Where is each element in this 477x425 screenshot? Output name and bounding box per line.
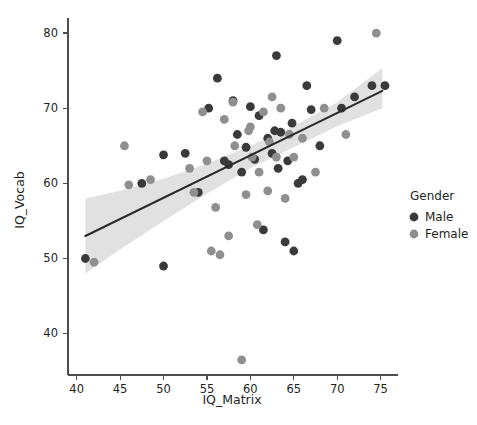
data-point	[159, 262, 168, 271]
y-axis-title: IQ_Vocab	[12, 171, 27, 229]
data-point	[190, 188, 199, 197]
data-point	[253, 220, 262, 229]
data-point	[372, 29, 381, 38]
y-tick-label: 70	[43, 101, 58, 115]
x-tick-label: 70	[330, 382, 345, 396]
data-point	[288, 119, 297, 128]
data-point	[302, 81, 311, 90]
legend-item-label: Male	[425, 210, 453, 224]
data-point	[268, 93, 277, 102]
data-point	[207, 247, 216, 256]
data-point	[230, 141, 239, 150]
data-point	[198, 108, 207, 117]
data-point	[311, 168, 320, 177]
y-tick-label: 50	[43, 251, 58, 265]
data-point	[244, 126, 253, 135]
scatter-plot-figure: 4050607080 4045505560657075 IQ_Matrix IQ…	[0, 0, 477, 425]
legend-swatch-male-icon	[410, 213, 419, 222]
data-point	[263, 186, 272, 195]
data-point	[333, 36, 342, 45]
data-point	[237, 168, 246, 177]
y-tick-label: 80	[43, 26, 58, 40]
data-point	[220, 115, 229, 124]
data-point	[272, 153, 281, 162]
data-point	[255, 168, 264, 177]
data-point	[276, 104, 285, 113]
data-point	[124, 180, 133, 189]
legend-item-label: Female	[425, 227, 468, 241]
data-point	[289, 153, 298, 162]
data-point	[146, 175, 155, 184]
data-point	[185, 164, 194, 173]
legend-title: Gender	[410, 189, 454, 203]
x-tick-label: 75	[373, 382, 388, 396]
x-tick-label: 40	[69, 382, 84, 396]
data-point	[298, 134, 307, 143]
data-point	[259, 108, 268, 117]
data-point	[203, 156, 212, 165]
data-point	[81, 254, 90, 263]
data-point	[274, 164, 283, 173]
data-point	[120, 141, 129, 150]
data-point	[341, 130, 350, 139]
data-point	[181, 149, 190, 158]
y-tick-label: 40	[43, 326, 58, 340]
data-point	[281, 238, 290, 247]
y-tick-label: 60	[43, 176, 58, 190]
data-point	[246, 102, 255, 111]
data-point	[242, 143, 251, 152]
x-tick-label: 50	[156, 382, 171, 396]
data-point	[211, 203, 220, 212]
data-point	[276, 128, 285, 137]
data-point	[289, 247, 298, 256]
data-point	[368, 81, 377, 90]
data-point	[320, 104, 329, 113]
plot-svg: 4050607080 4045505560657075 IQ_Matrix IQ…	[0, 0, 477, 425]
data-point	[242, 190, 251, 199]
data-point	[229, 98, 238, 107]
x-axis-title: IQ_Matrix	[202, 392, 261, 407]
data-point	[298, 175, 307, 184]
data-point	[159, 150, 168, 159]
data-point	[350, 93, 359, 102]
data-point	[272, 51, 281, 60]
data-point	[216, 250, 225, 259]
data-point	[213, 74, 222, 83]
data-point	[90, 258, 99, 267]
data-point	[307, 105, 316, 114]
data-point	[137, 179, 146, 188]
data-point	[233, 130, 242, 139]
x-tick-label: 65	[286, 382, 301, 396]
data-point	[315, 141, 324, 150]
data-point	[224, 232, 233, 241]
data-point	[381, 81, 390, 90]
legend-swatch-female-icon	[410, 230, 419, 239]
data-point	[237, 356, 246, 365]
data-point	[281, 194, 290, 203]
x-tick-label: 45	[113, 382, 128, 396]
